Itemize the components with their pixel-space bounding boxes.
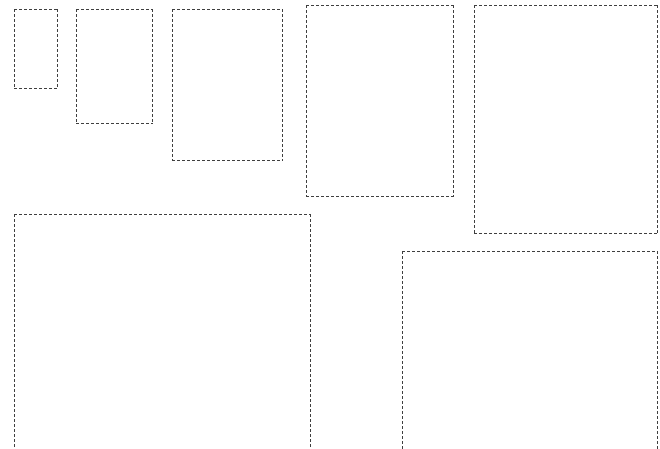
- bounding-box-5-edge-left: [474, 5, 475, 234]
- bounding-box-4-edge-left: [306, 5, 307, 197]
- bounding-box-4[interactable]: [306, 5, 454, 197]
- bounding-box-1-edge-top: [14, 9, 58, 10]
- annotation-canvas: [0, 0, 660, 449]
- bounding-box-4-edge-top: [306, 5, 454, 6]
- bounding-box-4-edge-right: [453, 5, 454, 197]
- bounding-box-7-edge-right: [657, 251, 658, 449]
- bounding-box-5-edge-bottom: [474, 233, 658, 234]
- bounding-box-6-edge-top: [14, 214, 311, 215]
- bounding-box-3-edge-left: [172, 9, 173, 161]
- bounding-box-5[interactable]: [474, 5, 658, 234]
- bounding-box-6-edge-left: [14, 214, 15, 449]
- bounding-box-2-edge-left: [76, 9, 77, 124]
- bounding-box-1-edge-right: [57, 9, 58, 89]
- bounding-box-6[interactable]: [14, 214, 311, 449]
- bounding-box-4-edge-bottom: [306, 196, 454, 197]
- bounding-box-2-edge-bottom: [76, 123, 153, 124]
- bounding-box-3-edge-right: [282, 9, 283, 161]
- bounding-box-2-edge-right: [152, 9, 153, 124]
- bounding-box-3-edge-bottom: [172, 160, 283, 161]
- bounding-box-3[interactable]: [172, 9, 283, 161]
- bounding-box-1-edge-bottom: [14, 88, 58, 89]
- bounding-box-5-edge-top: [474, 5, 658, 6]
- bounding-box-2-edge-top: [76, 9, 153, 10]
- bounding-box-7-edge-top: [402, 251, 658, 252]
- bounding-box-7[interactable]: [402, 251, 658, 449]
- bounding-box-6-edge-right: [310, 214, 311, 449]
- bounding-box-5-edge-right: [657, 5, 658, 234]
- bounding-box-3-edge-top: [172, 9, 283, 10]
- bounding-box-1-edge-left: [14, 9, 15, 89]
- bounding-box-1[interactable]: [14, 9, 58, 89]
- bounding-box-7-edge-left: [402, 251, 403, 449]
- bounding-box-2[interactable]: [76, 9, 153, 124]
